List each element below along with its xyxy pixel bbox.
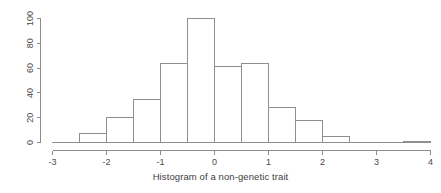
x-axis-tick-label: -2 (102, 157, 110, 167)
y-axis-tick-label: 60 (25, 63, 35, 73)
y-axis (37, 19, 41, 143)
histogram-bar (323, 136, 350, 142)
y-axis-tick-label: 100 (25, 11, 35, 26)
y-axis-tick-labels: 020406080100 (25, 11, 35, 145)
histogram-bar (107, 118, 134, 143)
histogram-bars (53, 19, 431, 143)
histogram-bar (269, 108, 296, 143)
x-axis-tick-label: 0 (212, 157, 217, 167)
histogram-bar (350, 142, 377, 143)
chart-title: Histogram of a non-genetic trait (0, 171, 441, 182)
y-axis-tick-label: 0 (25, 140, 35, 145)
x-axis-tick-label: -1 (156, 157, 164, 167)
histogram-bar (404, 141, 431, 142)
histogram-bar (296, 120, 323, 142)
histogram-bar (80, 134, 107, 143)
histogram-bar (161, 63, 188, 142)
x-axis-tick-label: 3 (374, 157, 379, 167)
y-axis-tick-label: 80 (25, 38, 35, 48)
histogram-bar (188, 19, 215, 143)
y-axis-tick-label: 20 (25, 113, 35, 123)
histogram-figure: 020406080100 -3-2-101234 Histogram of a … (0, 0, 441, 193)
histogram-bar (242, 63, 269, 142)
histogram-bar (53, 142, 80, 143)
histogram-bar (377, 142, 404, 143)
histogram-bar (215, 67, 242, 143)
y-axis-tick-label: 40 (25, 88, 35, 98)
x-axis-tick-label: 4 (428, 157, 433, 167)
x-axis-tick-labels: -3-2-101234 (48, 157, 433, 167)
histogram-plot-area: 020406080100 -3-2-101234 (0, 0, 441, 193)
x-axis-tick-label: 2 (320, 157, 325, 167)
x-axis (53, 151, 431, 155)
x-axis-tick-label: -3 (48, 157, 56, 167)
x-axis-tick-label: 1 (266, 157, 271, 167)
histogram-bar (134, 99, 161, 142)
